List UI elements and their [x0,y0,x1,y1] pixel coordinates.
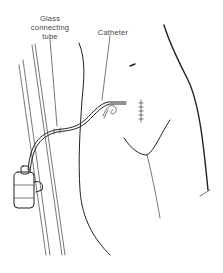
bed-rail-lines [19,44,65,255]
label-line-glass: Glass [26,14,74,23]
catheter-tubing [28,102,126,172]
incision-stitches [139,100,143,122]
label-line-connecting: connecting [26,23,74,32]
label-line-tube: tube [26,32,74,41]
illustration: Glass connecting tube Catheter [0,0,223,273]
catheter-label: Catheter [93,28,133,37]
glass-connecting-tube-label: Glass connecting tube [26,14,74,41]
body-contour [79,25,210,255]
label-leaders [50,36,110,126]
navel-mark [130,64,135,66]
